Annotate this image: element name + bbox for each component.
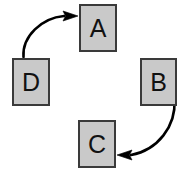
node-c[interactable]: C	[78, 120, 116, 168]
node-a[interactable]: A	[79, 4, 117, 52]
node-d-label: D	[22, 70, 40, 95]
edge-d-to-a	[23, 11, 78, 57]
edge-b-to-c-curve	[131, 100, 175, 155]
node-d[interactable]: D	[12, 58, 50, 106]
node-b-label: B	[150, 70, 167, 95]
node-b[interactable]: B	[140, 58, 177, 106]
diagram-canvas: A B C D	[0, 0, 188, 178]
edge-d-to-a-curve	[23, 16, 64, 57]
edge-b-to-c	[117, 100, 175, 160]
edge-b-to-c-arrowhead	[117, 150, 132, 160]
edge-d-to-a-arrowhead	[63, 11, 78, 21]
node-c-label: C	[88, 132, 106, 157]
node-a-label: A	[90, 16, 107, 41]
